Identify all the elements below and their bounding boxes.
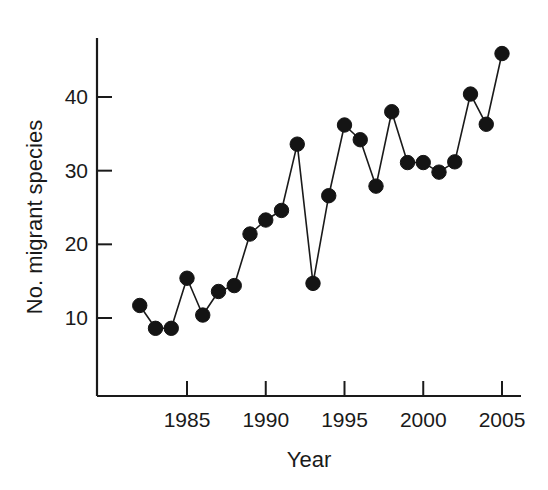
data-point	[479, 117, 493, 131]
chart-figure: 10203040 19851990199520002005 Year No. m…	[0, 0, 548, 490]
axes-group	[97, 38, 521, 396]
x-tick-label: 1985	[164, 408, 211, 431]
x-axis-ticks: 19851990199520002005	[164, 381, 526, 431]
data-point	[432, 165, 446, 179]
data-point	[385, 105, 399, 119]
y-axis-title: No. migrant species	[22, 120, 47, 314]
data-series-line	[140, 54, 502, 329]
data-point	[400, 155, 414, 169]
data-point	[274, 203, 288, 217]
data-point-markers	[133, 46, 510, 335]
data-point	[337, 118, 351, 132]
x-tick-label: 2005	[479, 408, 526, 431]
data-point	[290, 137, 304, 151]
line-chart-plot: 10203040 19851990199520002005 Year No. m…	[0, 0, 548, 490]
y-tick-label: 20	[65, 232, 88, 255]
data-point	[164, 321, 178, 335]
data-point	[243, 227, 257, 241]
data-point	[463, 87, 477, 101]
data-point	[369, 179, 383, 193]
y-tick-label: 30	[65, 159, 88, 182]
x-tick-label: 1990	[242, 408, 289, 431]
data-point	[211, 284, 225, 298]
data-point	[133, 298, 147, 312]
y-axis-ticks: 10203040	[65, 85, 112, 329]
data-point	[259, 213, 273, 227]
x-tick-label: 1995	[321, 408, 368, 431]
data-point	[148, 321, 162, 335]
y-tick-label: 10	[65, 306, 88, 329]
y-tick-label: 40	[65, 85, 88, 108]
x-tick-label: 2000	[400, 408, 447, 431]
data-point	[180, 271, 194, 285]
data-point	[495, 46, 509, 60]
data-point	[353, 133, 367, 147]
data-point	[306, 276, 320, 290]
x-axis-title: Year	[287, 447, 331, 472]
data-point	[196, 308, 210, 322]
data-point	[322, 189, 336, 203]
data-point	[416, 155, 430, 169]
data-point	[227, 278, 241, 292]
data-point	[448, 155, 462, 169]
